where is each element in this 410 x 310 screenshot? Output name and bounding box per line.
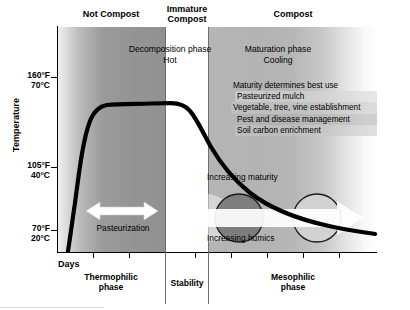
- bottom-label-thermophilic: Thermophilic phase: [57, 272, 165, 292]
- x-axis-tick-6: [267, 252, 268, 258]
- header-immature-line1: Immature: [166, 4, 208, 14]
- plot-area: Decomposition phase Hot Maturation phase…: [57, 27, 377, 252]
- x-axis-tick-4: [195, 252, 196, 258]
- y-tick-label-70: 70°F 20°C: [8, 224, 50, 243]
- x-axis-tick-2: [129, 252, 130, 258]
- header-not-compost: Not Compost: [57, 9, 165, 19]
- y-axis-tick-105: [51, 167, 57, 168]
- x-axis-tick-8: [339, 252, 340, 258]
- y-axis-tick-70: [51, 230, 57, 231]
- y-axis-title: Temperature: [11, 70, 21, 180]
- x-axis-tick-1: [93, 252, 94, 258]
- temperature-curve: [57, 27, 377, 252]
- y-tick-70-c: 20°C: [8, 234, 50, 244]
- x-axis-title: Days: [58, 259, 80, 269]
- x-axis-tick-5: [231, 252, 232, 258]
- y-axis-line: [57, 26, 58, 253]
- x-axis-tick-7: [303, 252, 304, 258]
- bottom-label-mesophilic: Mesophilic phase: [209, 272, 377, 292]
- header-immature-compost: Immature Compost: [166, 4, 208, 24]
- header-immature-line2: Compost: [166, 14, 208, 24]
- bottom-thermophilic-line1: Thermophilic: [57, 272, 165, 282]
- bottom-mesophilic-line1: Mesophilic: [209, 272, 377, 282]
- bottom-label-stability: Stability: [166, 278, 208, 288]
- figure-canvas: Not Compost Immature Compost Compost 160…: [0, 0, 410, 310]
- y-axis-tick-160: [51, 77, 57, 78]
- bottom-thermophilic-line2: phase: [57, 282, 165, 292]
- bottom-frame-line: [0, 307, 104, 308]
- bottom-mesophilic-line2: phase: [209, 282, 377, 292]
- header-compost: Compost: [209, 9, 377, 19]
- x-axis-line: [57, 252, 377, 253]
